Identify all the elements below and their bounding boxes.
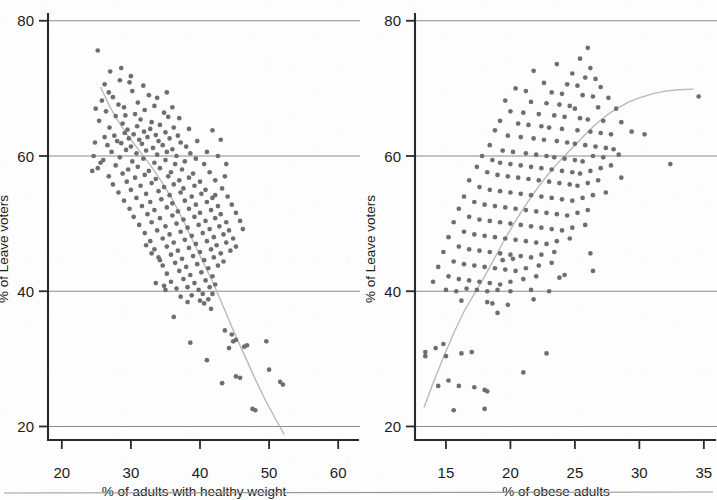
scatter-point xyxy=(107,125,112,130)
scatter-point xyxy=(508,279,513,284)
scatter-point xyxy=(508,221,513,226)
scatter-point xyxy=(529,100,534,105)
scatter-point xyxy=(140,204,145,209)
scatter-point xyxy=(446,235,451,240)
scatter-point xyxy=(115,139,120,144)
scatter-point xyxy=(120,121,125,126)
scatter-point xyxy=(171,315,176,320)
scatter-point xyxy=(174,221,179,226)
scatter-point xyxy=(189,233,194,238)
scatter-point xyxy=(575,183,580,188)
scatter-point xyxy=(619,120,624,125)
scatter-point xyxy=(131,215,136,220)
scatter-point xyxy=(485,170,490,175)
scatter-point xyxy=(227,228,232,233)
scatter-point xyxy=(163,158,168,163)
gridlines-group xyxy=(48,21,360,427)
scatter-point xyxy=(549,167,554,172)
scatter-point xyxy=(209,306,214,311)
scatter-point xyxy=(142,108,147,113)
scatter-point xyxy=(531,297,536,302)
xaxis-title: % of obese adults xyxy=(502,484,610,499)
figure-two-scatter-panels: 204060802030405060% of adults with healt… xyxy=(0,0,717,500)
scatter-point xyxy=(194,242,199,247)
scatter-point xyxy=(93,106,98,111)
xtick-label-50: 50 xyxy=(261,464,278,481)
scatter-point xyxy=(181,277,186,282)
scatter-point xyxy=(104,109,109,114)
scatter-point xyxy=(446,378,451,383)
scatter-point xyxy=(601,155,606,160)
scatter-point xyxy=(140,141,145,146)
scatter-point xyxy=(554,239,559,244)
scatter-point xyxy=(629,129,634,134)
scatter-point xyxy=(148,239,153,244)
scatter-point xyxy=(544,242,549,247)
scatter-point xyxy=(223,174,228,179)
scatter-point xyxy=(444,288,449,293)
scatter-point xyxy=(169,170,174,175)
scatter-point xyxy=(560,197,565,202)
scatter-point xyxy=(131,132,136,137)
scatter-point xyxy=(508,109,513,114)
scatter-point xyxy=(518,163,523,168)
ytick-label-60: 60 xyxy=(384,148,401,165)
scatter-point xyxy=(198,210,203,215)
scatter-point xyxy=(598,166,603,171)
scatter-point xyxy=(129,187,134,192)
scatter-point xyxy=(234,374,239,379)
xtick-label-35: 35 xyxy=(695,464,712,481)
scatter-point xyxy=(176,133,181,138)
scatter-point xyxy=(534,274,539,279)
scatter-point xyxy=(529,224,534,229)
scatter-point xyxy=(598,85,603,90)
scatter-point xyxy=(536,178,541,183)
scatter-point xyxy=(137,223,142,228)
scatter-point xyxy=(557,275,562,280)
scatter-point xyxy=(529,255,534,260)
xtick-label-30: 30 xyxy=(631,464,648,481)
scatter-point xyxy=(187,175,192,180)
scatter-point xyxy=(436,265,441,270)
scatter-point xyxy=(529,164,534,169)
scatter-point xyxy=(524,208,529,213)
scatter-point xyxy=(477,279,482,284)
scatter-point xyxy=(567,104,572,109)
scatter-point xyxy=(485,289,490,294)
xtick-label-40: 40 xyxy=(192,464,209,481)
scatter-point xyxy=(164,205,169,210)
scatter-point xyxy=(518,223,523,228)
scatter-point xyxy=(598,131,603,136)
scatter-point xyxy=(565,82,570,87)
scatter-point xyxy=(588,66,593,71)
scatter-point xyxy=(137,137,142,142)
xaxis-title: % of adults with healthy weight xyxy=(102,484,287,499)
scatter-point xyxy=(155,228,160,233)
yaxis-title: % of Leave voters xyxy=(0,195,11,303)
scatter-point xyxy=(170,213,175,218)
scatter-point xyxy=(180,256,185,261)
scatter-point xyxy=(521,370,526,375)
scatter-point xyxy=(490,301,495,306)
scatter-point xyxy=(196,288,201,293)
scatter-point xyxy=(593,77,598,82)
scatter-point xyxy=(552,155,557,160)
scatter-point xyxy=(148,127,153,132)
scatter-point xyxy=(218,251,223,256)
scatter-point xyxy=(209,247,214,252)
scatter-point xyxy=(188,151,193,156)
scatter-point xyxy=(423,350,428,355)
scatter-point xyxy=(524,151,529,156)
scatter-point xyxy=(130,159,135,164)
ytick-label-80: 80 xyxy=(384,12,401,29)
scatter-point xyxy=(529,193,534,198)
scatter-point xyxy=(456,244,461,249)
scatter-point xyxy=(469,350,474,355)
scatter-point xyxy=(224,220,229,225)
scatter-point xyxy=(187,127,192,132)
scatter-point xyxy=(596,178,601,183)
scatter-point xyxy=(542,81,547,86)
scatter-point xyxy=(508,190,513,195)
scatter-point xyxy=(583,143,588,148)
scatter-point xyxy=(498,220,503,225)
